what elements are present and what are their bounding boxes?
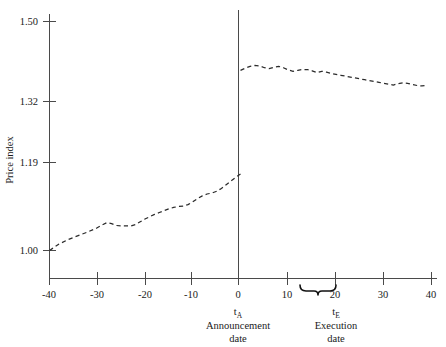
t-subscript-a: A [237,311,243,320]
x-tick-label-10: 10 [282,289,293,300]
x-tick-label-40: 40 [426,289,437,300]
x-tick-label-0: 0 [235,289,240,300]
announcement-symbol: tA [234,306,243,320]
y-tick-label-1-19: 1.19 [20,157,38,168]
announcement-label: Announcement [206,320,270,331]
price-index-chart: 1.50 1.32 1.19 1.00 Price index -40 -30 … [0,0,446,347]
chart-svg: 1.50 1.32 1.19 1.00 Price index -40 -30 … [0,0,446,347]
execution-symbol: tE [332,306,340,320]
y-tick-label-1-50: 1.50 [20,16,38,27]
announcement-date-label: date [229,333,247,344]
y-tick-label-1-32: 1.32 [20,96,38,107]
series-line-post-announcement [241,66,427,86]
x-tick-label--30: -30 [90,289,104,300]
execution-label: Execution [315,320,358,331]
x-tick-label-30: 30 [378,289,389,300]
x-tick-label--20: -20 [138,289,152,300]
t-subscript-e: E [335,311,340,320]
y-tick-label-1-00: 1.00 [20,245,38,256]
y-axis-title: Price index [4,135,15,183]
series-line-pre-announcement [50,174,241,250]
execution-date-label: date [327,333,345,344]
x-tick-label--40: -40 [42,289,56,300]
x-tick-label--10: -10 [184,289,198,300]
